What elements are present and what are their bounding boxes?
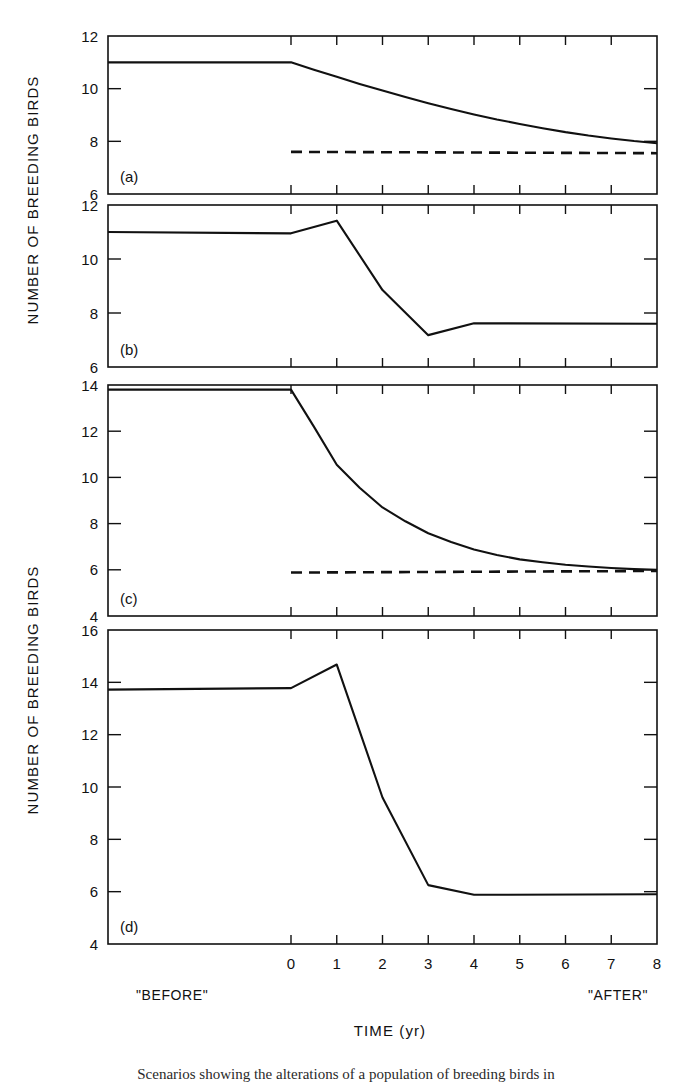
panel-d: 01234567846810121416(d) — [81, 622, 661, 973]
panel-a: 681012(a) — [81, 28, 657, 203]
y-tick-label: 8 — [90, 515, 98, 532]
y-tick-label: 16 — [81, 622, 98, 639]
y-tick-label: 14 — [81, 674, 98, 691]
population-curve — [108, 390, 657, 570]
x-tick-label: 4 — [470, 955, 478, 972]
plot-frame — [108, 630, 657, 944]
plot-frame — [108, 36, 657, 194]
y-tick-label: 6 — [90, 883, 98, 900]
x-tick-label: 6 — [561, 955, 569, 972]
y-tick-label: 12 — [81, 197, 98, 214]
x-tick-label: 3 — [424, 955, 432, 972]
breeding-birds-scenarios-figure: 681012(a)681012(b)468101214(c)0123456784… — [0, 0, 692, 1085]
equilibrium-dashed-line — [291, 571, 657, 573]
y-tick-label: 4 — [90, 936, 98, 953]
y-axis-title-bottom: NUMBER OF BREEDING BIRDS — [24, 566, 41, 815]
panel-label: (b) — [120, 341, 138, 358]
x-tick-label: 2 — [378, 955, 386, 972]
x-tick-label: 1 — [333, 955, 341, 972]
y-tick-label: 6 — [90, 561, 98, 578]
y-tick-label: 8 — [90, 305, 98, 322]
y-tick-label: 12 — [81, 28, 98, 45]
panel-c: 468101214(c) — [81, 377, 657, 625]
y-tick-label: 8 — [90, 831, 98, 848]
y-axis-title-top: NUMBER OF BREEDING BIRDS — [24, 76, 41, 325]
y-tick-label: 10 — [81, 469, 98, 486]
population-curve — [108, 665, 657, 895]
population-curve — [108, 62, 657, 143]
x-tick-label: 7 — [607, 955, 615, 972]
panel-b: 681012(b) — [81, 197, 657, 376]
x-tick-label: 5 — [516, 955, 524, 972]
figure-root: 681012(a)681012(b)468101214(c)0123456784… — [0, 0, 692, 1085]
y-tick-label: 12 — [81, 726, 98, 743]
equilibrium-dashed-line — [291, 152, 657, 153]
x-axis-title: TIME (yr) — [354, 1022, 426, 1039]
y-tick-label: 14 — [81, 377, 98, 394]
before-label: "BEFORE" — [136, 987, 208, 1003]
panel-label: (d) — [120, 918, 138, 935]
plot-frame — [108, 385, 657, 616]
y-tick-label: 10 — [81, 80, 98, 97]
plot-frame — [108, 205, 657, 367]
y-tick-label: 10 — [81, 779, 98, 796]
y-tick-label: 8 — [90, 133, 98, 150]
y-tick-label: 10 — [81, 251, 98, 268]
population-curve — [108, 221, 657, 335]
panel-label: (a) — [120, 168, 138, 185]
y-tick-label: 6 — [90, 359, 98, 376]
after-label: "AFTER" — [588, 987, 648, 1003]
x-tick-label: 8 — [653, 955, 661, 972]
x-tick-label: 0 — [287, 955, 295, 972]
y-tick-label: 12 — [81, 423, 98, 440]
panel-label: (c) — [120, 590, 138, 607]
figure-caption: Scenarios showing the alterations of a p… — [0, 1066, 692, 1083]
